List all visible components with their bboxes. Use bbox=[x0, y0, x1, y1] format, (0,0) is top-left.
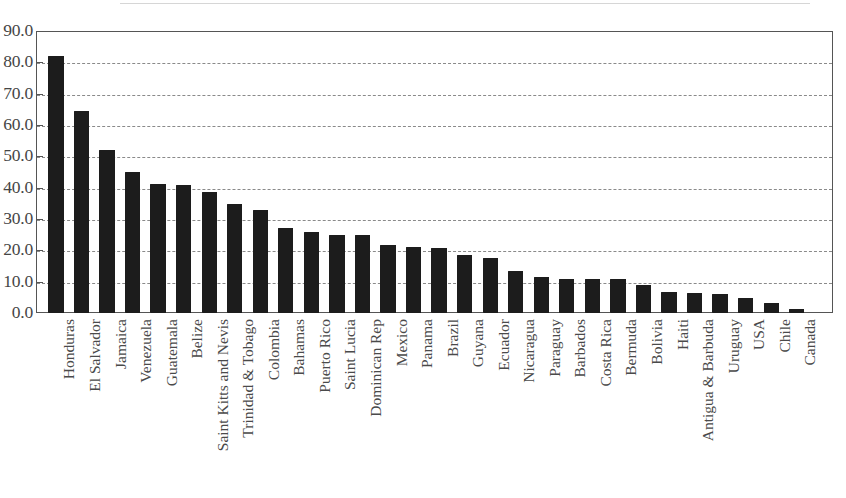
x-axis: HondurasEl SalvadorJamaicaVenezuelaGuate… bbox=[36, 313, 833, 498]
x-tick-label: Costa Rica bbox=[598, 251, 614, 319]
x-tick-label-text: Venezuela bbox=[138, 319, 154, 383]
x-tick-label-text: Costa Rica bbox=[598, 319, 614, 387]
y-tick-label: 50.0 bbox=[3, 148, 33, 166]
x-tick-label: Haiti bbox=[675, 288, 691, 319]
x-tick-label: Guatemala bbox=[164, 252, 180, 319]
x-tick-label: Uruguay bbox=[726, 265, 742, 319]
x-tick-label: Saint Lucia bbox=[342, 248, 358, 319]
x-tick-label-text: Paraguay bbox=[547, 319, 563, 377]
x-tick-label: USA bbox=[751, 288, 767, 319]
y-axis: 0.010.020.030.040.050.060.070.080.090.0 bbox=[0, 31, 33, 313]
x-tick-label-text: Mexico bbox=[394, 319, 410, 366]
y-tick-label: 70.0 bbox=[3, 85, 33, 103]
y-tick-mark bbox=[36, 188, 43, 189]
y-tick-mark bbox=[36, 62, 43, 63]
x-tick-label: Nicaragua bbox=[521, 255, 537, 319]
x-tick-label-text: Ecuador bbox=[496, 319, 512, 371]
x-tick-label-text: Bolivia bbox=[649, 319, 665, 365]
y-tick-mark bbox=[36, 125, 43, 126]
x-tick-label: Honduras bbox=[61, 259, 77, 319]
bar-chart: 0.010.020.030.040.050.060.070.080.090.0 … bbox=[0, 0, 846, 498]
x-tick-label-text: Antigua & Barbuda bbox=[700, 319, 716, 441]
x-tick-label-text: Bermuda bbox=[623, 319, 639, 376]
y-tick-label: 80.0 bbox=[3, 54, 33, 72]
x-tick-label: Canada bbox=[802, 273, 818, 319]
y-tick-mark bbox=[36, 94, 43, 95]
y-tick-label: 0.0 bbox=[12, 304, 33, 322]
y-tick-label: 20.0 bbox=[3, 242, 33, 260]
y-tick-label: 10.0 bbox=[3, 273, 33, 291]
x-tick-label-text: El Salvador bbox=[87, 319, 103, 392]
x-tick-label-text: USA bbox=[751, 319, 767, 350]
x-tick-label: Dominican Rep bbox=[368, 221, 384, 319]
x-tick-label: El Salvador bbox=[87, 246, 103, 319]
y-tick-mark bbox=[36, 250, 43, 251]
x-tick-label: Venezuela bbox=[138, 255, 154, 319]
x-tick-label: Trinidad & Tobago bbox=[240, 200, 256, 319]
y-tick-label: 60.0 bbox=[3, 116, 33, 134]
x-tick-label-text: Jamaica bbox=[113, 319, 129, 369]
x-tick-label-text: Uruguay bbox=[726, 319, 742, 373]
x-tick-label: Ecuador bbox=[496, 267, 512, 319]
x-tick-label-text: Barbados bbox=[572, 319, 588, 378]
x-tick-label-text: Guyana bbox=[470, 319, 486, 367]
x-tick-label-text: Bahamas bbox=[291, 319, 307, 376]
x-tick-label-text: Saint Kitts and Nevis bbox=[215, 319, 231, 451]
x-tick-label: Colombia bbox=[266, 258, 282, 319]
x-tick-label: Antigua & Barbuda bbox=[700, 197, 716, 319]
x-tick-label: Puerto Rico bbox=[317, 245, 333, 319]
x-tick-label: Chile bbox=[777, 285, 793, 319]
x-tick-label: Saint Kitts and Nevis bbox=[215, 187, 231, 319]
x-tick-label-text: Chile bbox=[777, 319, 793, 353]
x-tick-label-text: Nicaragua bbox=[521, 319, 537, 383]
x-tick-label: Bolivia bbox=[649, 273, 665, 319]
x-tick-label: Guyana bbox=[470, 271, 486, 319]
y-tick-mark bbox=[36, 219, 43, 220]
y-tick-mark bbox=[36, 156, 43, 157]
x-tick-label-text: Haiti bbox=[675, 319, 691, 350]
x-tick-label-text: Dominican Rep bbox=[368, 319, 384, 417]
y-tick-label: 90.0 bbox=[3, 22, 33, 40]
y-tick-label: 40.0 bbox=[3, 179, 33, 197]
y-tick-mark bbox=[36, 282, 43, 283]
x-tick-label-text: Guatemala bbox=[164, 319, 180, 386]
x-tick-label: Jamaica bbox=[113, 269, 129, 319]
x-tick-label: Paraguay bbox=[547, 261, 563, 319]
x-tick-label-text: Honduras bbox=[61, 319, 77, 379]
x-tick-label-text: Panama bbox=[419, 319, 435, 368]
scan-artifact-line bbox=[120, 3, 810, 4]
y-tick-label: 30.0 bbox=[3, 210, 33, 228]
x-tick-label-text: Colombia bbox=[266, 319, 282, 380]
x-tick-label: Mexico bbox=[394, 272, 410, 319]
x-tick-label-text: Trinidad & Tobago bbox=[240, 319, 256, 438]
x-tick-label-text: Saint Lucia bbox=[342, 319, 358, 390]
x-tick-label: Bahamas bbox=[291, 262, 307, 319]
x-tick-label-text: Brazil bbox=[445, 319, 461, 357]
x-tick-label: Bermuda bbox=[623, 262, 639, 319]
x-tick-label: Panama bbox=[419, 270, 435, 319]
x-tick-label: Belize bbox=[189, 279, 205, 319]
x-tick-label-text: Belize bbox=[189, 319, 205, 359]
x-tick-label-text: Canada bbox=[802, 319, 818, 365]
x-tick-label-text: Puerto Rico bbox=[317, 319, 333, 393]
x-tick-label: Barbados bbox=[572, 260, 588, 319]
x-tick-label: Brazil bbox=[445, 281, 461, 319]
